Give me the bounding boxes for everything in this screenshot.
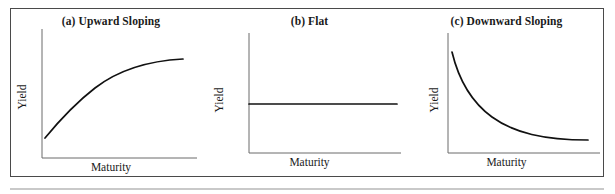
figure-border: (a) Upward Sloping Yield Maturity (b) Fl… [10, 8, 604, 177]
panel-a-x-axis-label: Maturity [11, 161, 211, 173]
bottom-divider-rule [10, 188, 604, 190]
panel-b-x-axis-label: Maturity [211, 156, 408, 168]
panel-b-plot [211, 9, 408, 178]
panel-a-plot [11, 9, 211, 178]
panel-flat: (b) Flat Yield Maturity [211, 9, 408, 178]
panel-upward-sloping: (a) Upward Sloping Yield Maturity [11, 9, 211, 178]
yield-curve-figure: (a) Upward Sloping Yield Maturity (b) Fl… [0, 0, 615, 194]
panel-c-x-axis-label: Maturity [408, 156, 605, 168]
panel-downward-sloping: (c) Downward Sloping Yield Maturity [408, 9, 605, 178]
panel-a-yield-curve [45, 59, 183, 138]
panel-c-yield-curve [452, 52, 588, 140]
panel-c-plot [408, 9, 605, 178]
